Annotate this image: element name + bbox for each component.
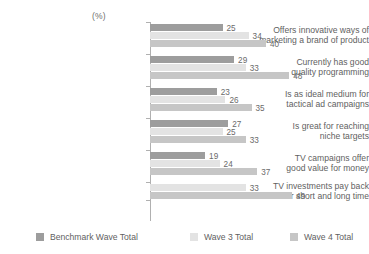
bar-row: 23: [150, 88, 369, 95]
legend-label: Wave 3 Total: [204, 232, 253, 242]
axis-tick: [146, 118, 150, 119]
legend-swatch-icon: [36, 233, 44, 241]
unit-label: (%): [92, 11, 106, 21]
legend-label: Wave 4 Total: [304, 232, 353, 242]
bar-value-label: 37: [261, 167, 270, 176]
bar-group: Currently has good quality programming29…: [0, 56, 369, 79]
legend-label: Benchmark Wave Total: [50, 232, 138, 242]
bar[interactable]: [150, 152, 205, 159]
axis-tick: [146, 200, 150, 201]
bar-stack: 272533: [150, 120, 369, 143]
bar[interactable]: [150, 24, 223, 31]
bar[interactable]: [150, 96, 225, 103]
chart-legend: Benchmark Wave TotalWave 3 TotalWave 4 T…: [0, 230, 369, 248]
bar[interactable]: [150, 184, 246, 191]
bar-value-label: 35: [256, 103, 265, 112]
bar-row: 25: [150, 24, 369, 31]
bar[interactable]: [150, 128, 223, 135]
bar[interactable]: [150, 136, 246, 143]
bar-row: 40: [150, 40, 369, 47]
bar-group: TV investments pay back over short and l…: [0, 184, 369, 199]
axis-tick: [146, 182, 150, 183]
bar-row: 49: [150, 192, 369, 199]
bar-row: 19: [150, 152, 369, 159]
bar-value-label: 33: [250, 135, 259, 144]
bar-row: 33: [150, 184, 369, 191]
bar[interactable]: [150, 40, 266, 47]
bar[interactable]: [150, 32, 249, 39]
bar[interactable]: [150, 104, 252, 111]
bar-row: 34: [150, 32, 369, 39]
bar-stack: 232635: [150, 88, 369, 111]
bar-group: Offers innovative ways of marketing a br…: [0, 24, 369, 47]
bar-value-label: 34: [253, 31, 262, 40]
bar-row: 27: [150, 120, 369, 127]
bar[interactable]: [150, 72, 289, 79]
bar-value-label: 33: [250, 183, 259, 192]
bar[interactable]: [150, 88, 217, 95]
bar-stack: 293348: [150, 56, 369, 79]
bar-value-label: 48: [293, 71, 302, 80]
bar-row: 48: [150, 72, 369, 79]
bar-group: Is as ideal medium for tactical ad campa…: [0, 88, 369, 111]
bar[interactable]: [150, 160, 220, 167]
bar-value-label: 24: [224, 159, 233, 168]
bar-value-label: 40: [270, 39, 279, 48]
axis-tick: [146, 86, 150, 87]
axis-tick: [146, 22, 150, 23]
bar-row: 24: [150, 160, 369, 167]
bar-value-label: 19: [209, 151, 218, 160]
bar-row: 33: [150, 64, 369, 71]
legend-item[interactable]: Benchmark Wave Total: [36, 230, 138, 244]
bar-row: 26: [150, 96, 369, 103]
bar[interactable]: [150, 56, 234, 63]
bar-stack: 3349: [150, 184, 369, 199]
bar-row: 35: [150, 104, 369, 111]
bar-value-label: 49: [296, 191, 305, 200]
bar-group: TV campaigns offer good value for money1…: [0, 152, 369, 175]
bar-value-label: 29: [238, 55, 247, 64]
legend-item[interactable]: Wave 3 Total: [190, 230, 253, 244]
axis-tick: [146, 150, 150, 151]
legend-item[interactable]: Wave 4 Total: [290, 230, 353, 244]
bar-row: 33: [150, 136, 369, 143]
bar-value-label: 33: [250, 63, 259, 72]
plot-area: Offers innovative ways of marketing a br…: [0, 22, 369, 226]
bar[interactable]: [150, 64, 246, 71]
bar-row: 37: [150, 168, 369, 175]
bar[interactable]: [150, 168, 257, 175]
bar-value-label: 25: [227, 127, 236, 136]
legend-swatch-icon: [290, 233, 298, 241]
bar-value-label: 26: [229, 95, 238, 104]
bar-row: 29: [150, 56, 369, 63]
legend-swatch-icon: [190, 233, 198, 241]
bar-row: 25: [150, 128, 369, 135]
axis-tick: [146, 54, 150, 55]
bar[interactable]: [150, 120, 228, 127]
bar[interactable]: [150, 192, 292, 199]
bar-value-label: 25: [227, 23, 236, 32]
bar-stack: 192437: [150, 152, 369, 175]
bar-stack: 253440: [150, 24, 369, 47]
bar-chart: (%) Offers innovative ways of marketing …: [0, 0, 369, 254]
bar-group: Is great for reaching niche targets27253…: [0, 120, 369, 143]
